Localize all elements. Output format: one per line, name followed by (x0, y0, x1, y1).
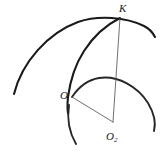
small-circle-arc-lower-left (68, 105, 76, 144)
segment-O-O2 (72, 97, 113, 122)
point-label-O2-subscript: 2 (114, 136, 118, 144)
point-label-O2: O2 (106, 131, 117, 142)
point-label-O2-base: O (106, 130, 114, 142)
geometry-figure: K O O2 (0, 0, 167, 152)
segment-K-O2 (113, 18, 120, 122)
geometry-canvas (0, 0, 167, 152)
point-label-K: K (119, 3, 126, 14)
large-outer-arc (14, 18, 155, 94)
point-label-O: O (60, 90, 68, 101)
